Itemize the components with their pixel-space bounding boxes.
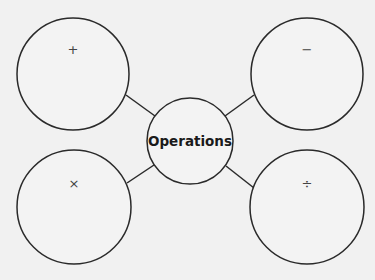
minus-symbol: − [302, 42, 313, 57]
times-symbol: × [69, 176, 80, 191]
connector-subtraction [225, 95, 254, 116]
plus-symbol: + [68, 42, 79, 57]
center-label: Operations [148, 133, 232, 149]
connector-addition [126, 95, 155, 116]
divide-symbol: ÷ [302, 176, 313, 191]
connector-division [226, 166, 254, 188]
addition-circle [17, 18, 129, 130]
subtraction-circle [251, 18, 363, 130]
multiplication-circle [17, 150, 131, 264]
operations-web-diagram: + − × ÷ Operations [0, 0, 375, 280]
division-circle [250, 150, 364, 264]
connector-multiplication [127, 165, 154, 183]
